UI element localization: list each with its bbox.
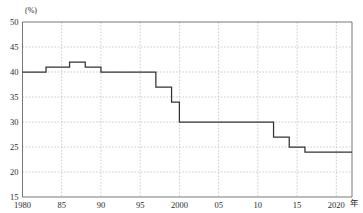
x-tick-label: 95 (136, 200, 145, 210)
plot-frame-group (23, 22, 353, 197)
x-tick-label: 90 (97, 200, 106, 210)
y-tick-label: 30 (10, 117, 19, 127)
x-tick-label: 05 (214, 200, 223, 210)
y-tick-label: 35 (10, 92, 19, 102)
data-step-line (23, 62, 353, 152)
x-tick-label: 85 (57, 200, 66, 210)
x-tick-labels-group: 198085909520000510152020 (14, 200, 345, 210)
x-tick-label: 10 (254, 200, 263, 210)
plot-svg: 1520253035404550 19808590952000051015202… (0, 0, 363, 213)
gridlines-group (23, 22, 353, 197)
chart-container: (%) 1520253035404550 1980859095200005101… (0, 0, 363, 213)
x-tick-label: 15 (293, 200, 302, 210)
y-tick-label: 20 (10, 167, 19, 177)
y-tick-labels-group: 1520253035404550 (10, 17, 19, 202)
y-tick-label: 40 (10, 67, 19, 77)
x-tick-label: 1980 (14, 200, 31, 210)
x-axis-suffix-label: 年 (350, 197, 359, 209)
x-tick-label: 2000 (171, 200, 188, 210)
y-tick-label: 25 (10, 142, 19, 152)
data-series-group (23, 62, 353, 152)
y-tick-label: 45 (10, 42, 19, 52)
plot-frame (23, 22, 353, 197)
y-tick-label: 50 (10, 17, 19, 27)
x-tick-label: 2020 (328, 200, 345, 210)
